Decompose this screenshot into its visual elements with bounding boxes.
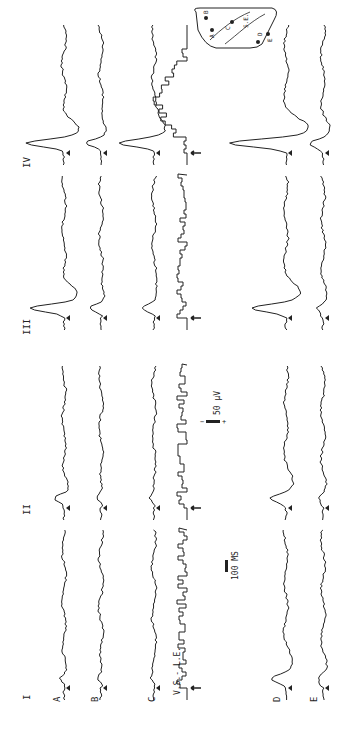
- response-onset-marker: [156, 150, 160, 156]
- waveform-trace: [90, 176, 105, 330]
- inset-label-se: S.E.: [242, 14, 249, 28]
- time-scale-bar: [225, 560, 228, 572]
- response-onset-marker: [288, 505, 292, 511]
- response-onset-marker: [156, 315, 160, 321]
- response-onset-marker: [66, 685, 70, 691]
- response-onset-marker: [325, 315, 329, 321]
- row-label-D: D: [272, 697, 282, 702]
- waveform-trace: [153, 25, 187, 165]
- waveform-trace: [26, 25, 79, 165]
- column-label-I: I: [22, 695, 32, 700]
- amplitude-plus: +: [222, 418, 226, 426]
- response-onset-marker: [156, 505, 160, 511]
- row-label-C: C: [147, 697, 157, 702]
- waveform-trace: [149, 366, 157, 520]
- waveform-trace: [150, 530, 157, 700]
- response-onset-marker: [288, 685, 292, 691]
- electrode-position-inset: A B C D E S.E.: [195, 8, 277, 48]
- response-onset-marker: [325, 150, 329, 156]
- waveform-trace: [272, 530, 293, 700]
- time-scale-label: 100 MS: [231, 551, 240, 580]
- inset-label-B: B: [202, 10, 209, 14]
- waveform-trace: [310, 25, 330, 165]
- response-onset-marker: [66, 505, 70, 511]
- waveform-trace: [230, 25, 309, 165]
- response-onset-marker: [103, 150, 107, 156]
- waveform-trace: [59, 530, 66, 700]
- row-label-E: E: [309, 697, 319, 702]
- response-onset-marker: [66, 150, 70, 156]
- waveform-trace: [30, 176, 77, 330]
- amplitude-scale-bar: [206, 420, 220, 423]
- row-label-B: B: [90, 697, 100, 702]
- response-onset-marker: [103, 315, 107, 321]
- column-label-II: II: [22, 504, 32, 515]
- waveform-trace: [270, 366, 294, 520]
- waveform-trace: [316, 176, 327, 330]
- waveform-trace: [55, 366, 68, 520]
- markers-layer: [66, 150, 329, 691]
- stimulus-arrow: [191, 506, 201, 510]
- stimulus-arrow: [191, 316, 201, 320]
- response-onset-marker: [325, 505, 329, 511]
- amplitude-minus: −: [200, 418, 204, 426]
- column-label-III: III: [22, 319, 32, 335]
- inset-label-C: C: [224, 26, 231, 30]
- response-onset-marker: [103, 505, 107, 511]
- response-onset-marker: [288, 150, 292, 156]
- waveform-trace: [98, 530, 104, 700]
- row-label-A: A: [52, 696, 62, 702]
- waveform-trace: [252, 176, 301, 330]
- waveform-trace: [319, 366, 328, 520]
- stimulus-arrow: [191, 151, 201, 155]
- response-onset-marker: [325, 685, 329, 691]
- waveform-trace: [319, 530, 328, 700]
- waveform-trace: [87, 25, 107, 165]
- stimulus-arrow: [191, 686, 201, 690]
- waveform-trace: [119, 25, 165, 165]
- response-onset-marker: [66, 315, 70, 321]
- amplitude-scale-label: 50 µV: [213, 391, 222, 415]
- waveform-trace: [142, 176, 157, 330]
- inset-label-A: A: [208, 34, 215, 38]
- waveform-trace: [177, 364, 187, 520]
- response-onset-marker: [288, 315, 292, 321]
- waveform-trace: [97, 366, 104, 520]
- row-label-vs-le: V.S.- L.E.: [173, 647, 182, 695]
- waveform-trace: [177, 174, 187, 330]
- traces-layer: [26, 25, 330, 700]
- inset-label-D: D: [256, 32, 263, 36]
- evoked-potential-figure: I II III IV A B C V.S.- L.E. D E 100 MS …: [0, 0, 344, 741]
- response-onset-marker: [103, 685, 107, 691]
- column-label-IV: IV: [22, 157, 32, 168]
- response-onset-marker: [156, 685, 160, 691]
- inset-label-E: E: [266, 38, 273, 42]
